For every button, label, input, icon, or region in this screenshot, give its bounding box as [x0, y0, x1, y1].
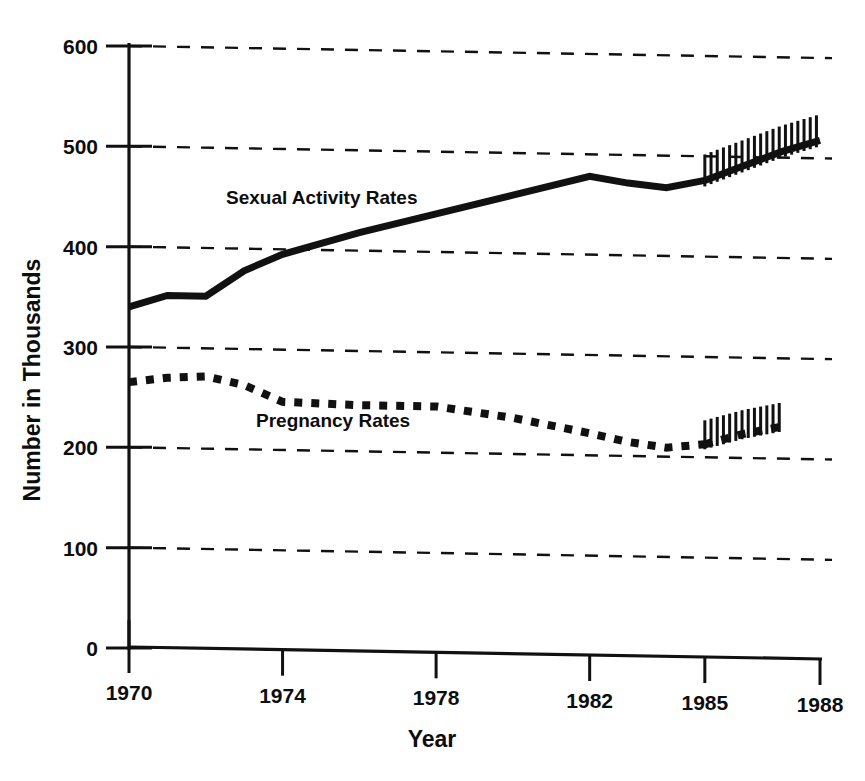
y-tick-label: 200 — [63, 436, 98, 459]
line-chart: 0100200300400500600 19701974197819821985… — [0, 0, 865, 781]
x-tick-label: 1978 — [413, 686, 460, 709]
x-tick-label: 1982 — [566, 689, 613, 712]
y-tick-label: 500 — [63, 135, 98, 158]
y-tick-label: 600 — [63, 35, 98, 58]
y-tick-label: 0 — [86, 637, 98, 660]
y-tick-label: 300 — [63, 336, 98, 359]
x-tick-label: 1970 — [106, 681, 153, 704]
x-tick-label: 1974 — [259, 684, 306, 707]
y-tick-label: 400 — [63, 236, 98, 259]
series-label-sexual-activity-rates: Sexual Activity Rates — [226, 187, 418, 208]
y-tick-label: 100 — [63, 537, 98, 560]
x-axis-title: Year — [408, 726, 457, 752]
x-tick-label: 1985 — [681, 691, 728, 714]
chart-container: 0100200300400500600 19701974197819821985… — [0, 0, 865, 781]
y-axis-title: Number in Thousands — [19, 259, 45, 502]
series-label-pregnancy-rates: Pregnancy Rates — [256, 410, 410, 431]
x-tick-label: 1988 — [797, 693, 844, 716]
